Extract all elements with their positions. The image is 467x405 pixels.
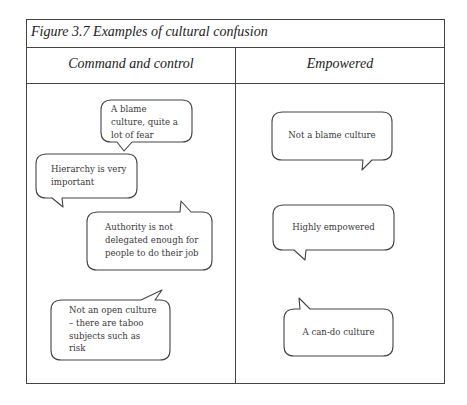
speech-bubble-not-open-culture: Not an open culture – there are taboo su… xyxy=(69,304,157,355)
speech-bubble-not-blame-culture: Not a blame culture xyxy=(272,129,392,142)
speech-bubble-hierarchy-important: Hierarchy is very important xyxy=(51,163,126,189)
speech-bubble-can-do-culture: A can-do culture xyxy=(284,326,393,339)
speech-bubble-authority-not-delegated: Authority is not delegated enough for pe… xyxy=(105,221,199,259)
speech-bubble-blame-culture-fear: A blame culture, quite a lot of fear xyxy=(111,103,178,141)
speech-bubble-highly-empowered: Highly empowered xyxy=(273,221,394,234)
